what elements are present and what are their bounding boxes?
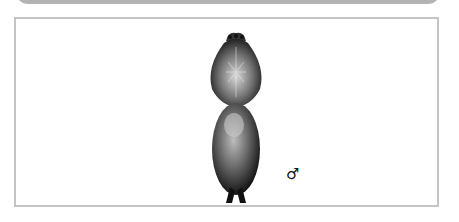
male-symbol-icon: ♂ [286, 167, 299, 182]
previous-figure-frame-edge [16, 0, 440, 4]
spider-illustration-icon [196, 27, 276, 205]
figure-frame: ♂ [14, 17, 439, 207]
